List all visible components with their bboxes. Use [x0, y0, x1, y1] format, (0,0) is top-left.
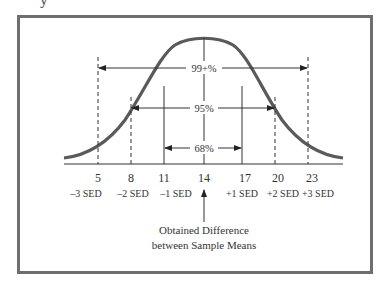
tick-value: 23: [306, 171, 318, 185]
sed-label: –1 SED: [159, 188, 191, 199]
tick-value: 17: [239, 171, 251, 185]
cropped-heading-fragment: y: [40, 0, 48, 8]
tick-value: 8: [128, 171, 134, 185]
sed-label: +3 SED: [302, 188, 334, 199]
tick-value: 20: [272, 171, 284, 185]
sed-label: +2 SED: [267, 188, 299, 199]
tick-value: 11: [158, 171, 170, 185]
sed-label: –2 SED: [116, 188, 148, 199]
interval-label-68: 68%: [194, 143, 214, 154]
interval-label-95: 95%: [194, 103, 214, 114]
sed-label: –3 SED: [69, 188, 101, 199]
tick-value: 5: [95, 171, 101, 185]
sed-label: +1 SED: [226, 188, 258, 199]
interval-label-99: 99+%: [191, 63, 216, 74]
annotation-line-1: Obtained Difference: [159, 224, 249, 236]
tick-value: 14: [198, 171, 210, 185]
annotation-line-2: between Sample Means: [152, 239, 256, 251]
normal-distribution-diagram: 99+% 95% 68% 5 8 11 14 17 20 23 –3 SED –…: [0, 0, 390, 290]
